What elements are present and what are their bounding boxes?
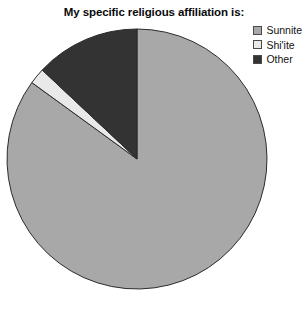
legend-label-shiite: Shi'ite	[266, 40, 294, 51]
pie-chart-figure: My specific religious affiliation is: Su…	[0, 0, 308, 310]
legend-item-shiite[interactable]: Shi'ite	[253, 40, 302, 51]
pie-svg	[6, 28, 268, 290]
legend-item-other[interactable]: Other	[253, 54, 302, 65]
legend-swatch-shiite	[253, 40, 262, 49]
chart-title: My specific religious affiliation is:	[0, 6, 308, 18]
chart-legend: Sunnite Shi'ite Other	[253, 25, 302, 65]
legend-swatch-other	[253, 55, 262, 64]
legend-label-other: Other	[266, 54, 292, 65]
pie-plot-area	[6, 28, 268, 290]
legend-label-sunnite: Sunnite	[266, 25, 302, 36]
legend-item-sunnite[interactable]: Sunnite	[253, 25, 302, 36]
legend-swatch-sunnite	[253, 26, 262, 35]
